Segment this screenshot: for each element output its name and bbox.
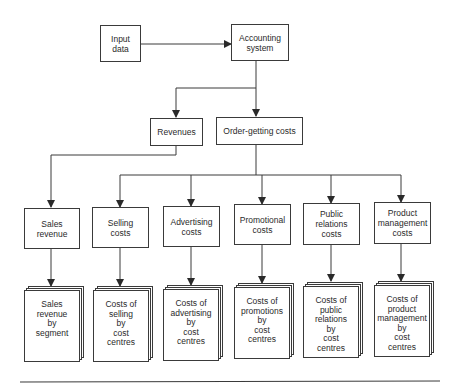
arrow-to-sales-revenue bbox=[51, 145, 176, 207]
category-box-public-relations-costs: Public relations costs bbox=[303, 203, 360, 245]
report-stack-product-management: Costs of product management by cost cent… bbox=[374, 281, 436, 357]
report-label: Costs of advertising by cost centres bbox=[170, 299, 211, 347]
accounting-system-label: Accounting system bbox=[239, 33, 281, 53]
category-label: Sales revenue bbox=[37, 219, 68, 239]
revenues-box: Revenues bbox=[150, 118, 203, 146]
category-label: Selling costs bbox=[108, 218, 134, 238]
order-getting-costs-box: Order-getting costs bbox=[216, 117, 303, 145]
report-label: Costs of public relations by cost centre… bbox=[315, 296, 347, 353]
report-label: Costs of promotions by cost centres bbox=[241, 297, 283, 345]
report-stack-sales-revenue: Sales revenue by segment bbox=[24, 286, 86, 362]
report-label: Sales revenue by segment bbox=[36, 300, 69, 338]
report-label: Costs of selling by cost centres bbox=[105, 300, 136, 348]
report-stack-promotions: Costs of promotions by cost centres bbox=[234, 283, 296, 359]
category-label: Product management costs bbox=[378, 208, 428, 238]
revenues-label: Revenues bbox=[157, 127, 195, 137]
report-label: Costs of product management by cost cent… bbox=[377, 295, 427, 352]
input-data-box: Input data bbox=[100, 25, 141, 62]
category-box-advertising-costs: Advertising costs bbox=[163, 206, 220, 247]
category-box-selling-costs: Selling costs bbox=[92, 207, 149, 248]
bottom-rule bbox=[20, 381, 440, 382]
category-box-promotional-costs: Promotional costs bbox=[234, 204, 291, 245]
category-label: Public relations costs bbox=[315, 209, 347, 239]
accounting-system-box: Accounting system bbox=[231, 24, 289, 61]
report-stack-public-relations: Costs of public relations by cost centre… bbox=[303, 282, 365, 358]
category-box-sales-revenue: Sales revenue bbox=[24, 208, 80, 249]
category-box-product-management-costs: Product management costs bbox=[374, 202, 431, 244]
category-label: Promotional costs bbox=[240, 215, 285, 235]
order-getting-costs-label: Order-getting costs bbox=[223, 126, 295, 136]
report-stack-advertising: Costs of advertising by cost centres bbox=[163, 285, 225, 361]
report-stack-selling: Costs of selling by cost centres bbox=[93, 286, 155, 362]
category-label: Advertising costs bbox=[170, 217, 212, 237]
input-data-label: Input data bbox=[111, 34, 130, 54]
arrow-to-revenues bbox=[176, 60, 256, 117]
